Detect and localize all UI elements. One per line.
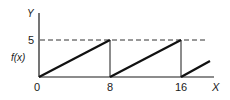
y-axis-label: Y	[27, 8, 35, 19]
ramp-1	[39, 40, 110, 77]
function-label: f(x)	[11, 52, 25, 63]
y-tick-5: 5	[28, 34, 34, 46]
ramp-3	[181, 61, 210, 77]
x-tick-8: 8	[107, 81, 113, 93]
x-axis-label: X	[211, 81, 220, 93]
x-tick-0: 0	[34, 81, 40, 93]
x-tick-16: 16	[175, 81, 187, 93]
sawtooth-diagram: Y 5 f(x) 0 8 16 X	[0, 0, 230, 100]
ramp-2	[110, 40, 181, 77]
